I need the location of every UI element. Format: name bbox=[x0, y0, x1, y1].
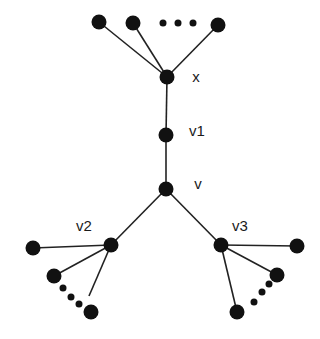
node-v1 bbox=[159, 128, 174, 143]
ellipsis-dot bbox=[266, 281, 273, 288]
node-label-v2: v2 bbox=[76, 217, 92, 234]
edge-x-t2 bbox=[133, 23, 167, 77]
tree-diagram: xv1vv2v3 bbox=[0, 0, 320, 339]
right-ellipsis-icon bbox=[251, 281, 273, 306]
node-v bbox=[159, 182, 174, 197]
nodes-layer bbox=[26, 15, 305, 320]
node-r2 bbox=[270, 268, 285, 283]
edge-x-v1 bbox=[166, 77, 167, 135]
edge-v-v3 bbox=[166, 189, 221, 245]
node-r3 bbox=[230, 305, 245, 320]
node-r1 bbox=[290, 239, 305, 254]
node-t1 bbox=[92, 15, 107, 30]
node-l2 bbox=[47, 269, 62, 284]
ellipsis-dot bbox=[160, 20, 167, 27]
node-t3 bbox=[211, 18, 226, 33]
edge-v-v2 bbox=[111, 189, 166, 245]
ellipsis-dot bbox=[251, 299, 258, 306]
edge-v3-r2 bbox=[221, 245, 277, 275]
edge-v2-l1 bbox=[33, 245, 111, 248]
top-ellipsis-icon bbox=[160, 20, 197, 27]
node-label-x: x bbox=[192, 68, 200, 85]
node-label-v: v bbox=[194, 175, 202, 192]
ellipsis-dot bbox=[259, 289, 266, 296]
node-x bbox=[160, 70, 175, 85]
node-label-v3: v3 bbox=[232, 217, 248, 234]
node-l3 bbox=[84, 305, 99, 320]
ellipsis-dot bbox=[60, 285, 67, 292]
labels-layer: xv1vv2v3 bbox=[76, 68, 248, 234]
node-label-v1: v1 bbox=[189, 122, 205, 139]
edge-v3-r1 bbox=[221, 245, 297, 246]
ellipsis-dot bbox=[68, 294, 75, 301]
edge-v2-l2 bbox=[54, 245, 111, 276]
ellipsis-dot bbox=[175, 20, 182, 27]
node-v2 bbox=[104, 238, 119, 253]
edge-v3-r3 bbox=[221, 245, 237, 312]
node-l1 bbox=[26, 241, 41, 256]
edge-v2-l3 bbox=[89, 245, 111, 296]
node-v3 bbox=[214, 238, 229, 253]
node-t2 bbox=[126, 16, 141, 31]
ellipsis-dot bbox=[190, 20, 197, 27]
ellipsis-dot bbox=[76, 301, 83, 308]
graph-svg: xv1vv2v3 bbox=[0, 0, 320, 339]
edges-layer bbox=[33, 22, 297, 312]
left-ellipsis-icon bbox=[60, 285, 83, 308]
